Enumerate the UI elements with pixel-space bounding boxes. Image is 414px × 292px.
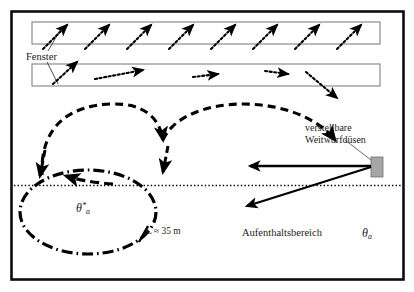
label-fenster: Fenster xyxy=(26,51,57,63)
lower-band-jet-arrows xyxy=(53,62,337,98)
label-theta-a: θa xyxy=(362,226,372,242)
theta-star-subscript: a xyxy=(86,207,90,216)
label-adjustable-nozzles: verstellbare Weitwurfdüsen xyxy=(305,122,366,146)
label-theta-star-a: θ*a xyxy=(76,201,90,217)
adjustable-nozzle-block xyxy=(371,157,383,177)
diagram-vector-layer xyxy=(0,0,414,292)
ventilation-airflow-diagram: Fenster verstellbare Weitwurfdüsen Aufen… xyxy=(0,0,414,292)
label-occupied-zone: Aufenthaltsbereich xyxy=(242,227,322,239)
recirculation-dashed-curves xyxy=(42,104,335,175)
theta-a-subscript: a xyxy=(368,232,372,241)
upper-band-jet-arrows xyxy=(43,25,361,49)
label-nozzle-line-1: verstellbare xyxy=(305,122,366,134)
floor-return-arrow xyxy=(66,176,113,184)
upper-window-band xyxy=(32,22,380,44)
label-nozzle-line-2: Weitwurfdüsen xyxy=(305,134,366,146)
label-room-length: L ≈ 35 m xyxy=(146,226,181,237)
